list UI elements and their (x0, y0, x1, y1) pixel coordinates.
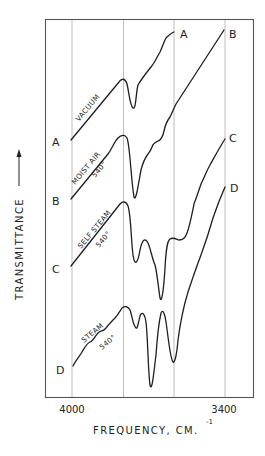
curve-a-start-label: A (52, 136, 60, 149)
curve-c-end-label: C (229, 132, 237, 145)
curve-c-start-label: C (52, 263, 60, 276)
curve-a-vacuum (71, 32, 174, 140)
annotation-steam-temp: 540° (98, 333, 118, 352)
y-axis-title: TRANSMITTANCE (14, 149, 25, 301)
curve-d-start-label: D (56, 364, 64, 377)
x-tick-4000: 4000 (59, 404, 84, 415)
up-arrow-icon (17, 149, 22, 157)
ir-spectrum-chart: A B C D A B C D VACUUM MOIST AIR 540° SE… (0, 0, 265, 456)
grid-lines (72, 20, 225, 397)
x-tick-3400: 3400 (211, 404, 236, 415)
x-axis-label: FREQUENCY, CM. (93, 425, 199, 436)
curve-d-end-label: D (230, 182, 238, 195)
curve-a-end-label: A (180, 28, 188, 41)
x-axis-label-superscript: -1 (206, 418, 213, 426)
plot-frame (46, 20, 254, 398)
curve-b-start-label: B (52, 195, 60, 208)
curve-b-end-label: B (229, 28, 237, 41)
curve-d-steam (73, 187, 225, 387)
y-axis-label: TRANSMITTANCE (14, 198, 25, 301)
